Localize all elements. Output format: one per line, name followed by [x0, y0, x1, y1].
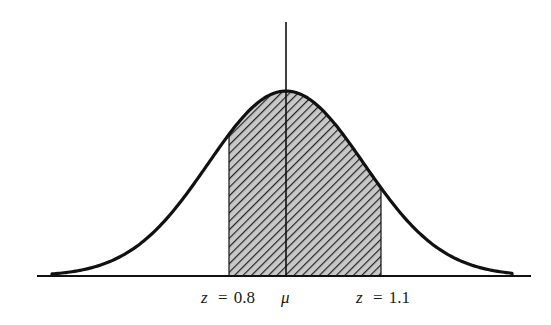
shaded-area: [229, 91, 381, 276]
left-bound-label: z = 0.8: [200, 288, 255, 307]
right-bound-label: z = 1.1: [355, 288, 410, 307]
mean-label: μ: [280, 288, 290, 307]
normal-curve-diagram: z = 0.8 μ z = 1.1: [0, 0, 551, 325]
